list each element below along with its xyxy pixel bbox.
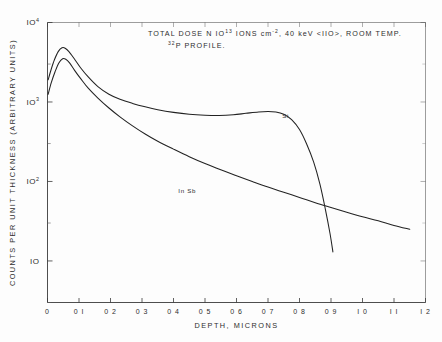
data-curves [48,48,410,252]
x-tick-label: 0 9 [325,308,337,315]
log-line-chart: 00 I0 20 30 40 50 60 70 80 9I 0I II 2IO4… [0,0,442,342]
x-tick-label: 0 2 [104,308,116,315]
y-tick-label: IO4 [27,17,40,27]
x-tick-label: 0 5 [199,308,211,315]
x-axis-ticks: 00 I0 20 30 40 50 60 70 80 9I 0I II 2 [45,23,431,316]
x-tick-label: 0 4 [167,308,179,315]
x-tick-label: 0 7 [262,308,274,315]
y-axis-ticks: IO4IO3IO2IO [27,17,426,303]
curve-label-si: Si [282,112,289,119]
chart-title-line-2: 32P PROFILE. [168,40,226,50]
curve-annotations: SiIn Sb [178,112,289,193]
chart-title-line-1: TOTAL DOSE N IO13 IONS cm-2, 40 keV <IIO… [148,28,402,38]
x-tick-label: I 2 [420,308,430,315]
y-axis-title: COUNTS PER UNIT THICKNESS (ARBITRARY UNI… [8,39,17,286]
x-tick-label: 0 [45,308,50,315]
curve-insb [48,58,410,229]
y-tick-label: IO2 [27,176,40,186]
x-tick-label: 0 3 [136,308,148,315]
x-tick-label: 0 I [74,308,84,315]
y-tick-label: IO3 [27,96,40,106]
curve-si [48,48,333,252]
axis-frame [48,23,426,303]
figure-container: 00 I0 20 30 40 50 60 70 80 9I 0I II 2IO4… [0,0,442,342]
x-tick-label: 0 8 [293,308,305,315]
x-axis-title: DEPTH, MICRONS [194,321,278,330]
x-tick-label: I I [390,308,399,315]
curve-label-insb: In Sb [178,187,196,194]
x-tick-label: I 0 [357,308,367,315]
x-tick-label: 0 6 [230,308,242,315]
y-tick-label: IO [30,257,39,266]
